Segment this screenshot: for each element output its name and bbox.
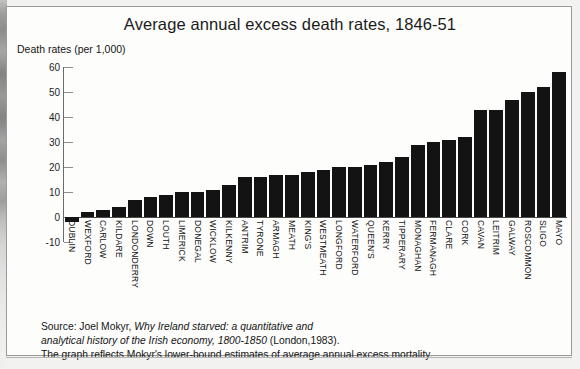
bar-item[interactable] bbox=[536, 67, 552, 242]
source-title-part-2: analytical history of the Irish economy,… bbox=[41, 335, 267, 346]
bar[interactable] bbox=[395, 157, 409, 217]
bar-item[interactable] bbox=[127, 67, 143, 242]
bar[interactable] bbox=[175, 192, 189, 217]
x-axis-label: KERRY bbox=[381, 220, 391, 250]
bar[interactable] bbox=[442, 140, 456, 218]
x-axis-label: WEXFORD bbox=[83, 220, 93, 265]
x-axis-label: WESTMEATH bbox=[318, 220, 328, 275]
bar-item[interactable] bbox=[378, 67, 394, 242]
bar-item[interactable] bbox=[253, 67, 269, 242]
bar[interactable] bbox=[364, 165, 378, 218]
bar-series bbox=[64, 67, 567, 242]
x-axis-label: CORK bbox=[460, 220, 470, 245]
y-axis-tick-label: 40 bbox=[20, 112, 60, 123]
x-axis-label: WICKLOW bbox=[208, 220, 218, 263]
bar-item[interactable] bbox=[111, 67, 127, 242]
x-axis-label: ARMAGH bbox=[271, 220, 281, 259]
bar[interactable] bbox=[552, 72, 566, 217]
bar-item[interactable] bbox=[347, 67, 363, 242]
bar[interactable] bbox=[474, 110, 488, 218]
bar[interactable] bbox=[238, 177, 252, 217]
bar[interactable] bbox=[301, 172, 315, 217]
y-axis-tick-label: 0 bbox=[20, 212, 60, 223]
bar[interactable] bbox=[81, 212, 95, 217]
bar-item[interactable] bbox=[551, 67, 567, 242]
y-axis-tick-label: -10 bbox=[20, 237, 60, 248]
bar[interactable] bbox=[144, 197, 158, 217]
bar-item[interactable] bbox=[316, 67, 332, 242]
bar[interactable] bbox=[285, 175, 299, 218]
y-axis-tick-label: 30 bbox=[20, 137, 60, 148]
x-axis-label: CARLOW bbox=[98, 220, 108, 259]
x-axis-label: CLARE bbox=[444, 220, 454, 249]
bar-item[interactable] bbox=[284, 67, 300, 242]
bar[interactable] bbox=[159, 195, 173, 218]
bar-item[interactable] bbox=[95, 67, 111, 242]
bar-item[interactable] bbox=[80, 67, 96, 242]
x-axis-label: QUEEN'S bbox=[366, 220, 376, 259]
bar[interactable] bbox=[379, 162, 393, 217]
bar[interactable] bbox=[96, 210, 110, 218]
x-axis-label: KILKENNY bbox=[224, 220, 234, 264]
bar-item[interactable] bbox=[363, 67, 379, 242]
x-axis-label: CAVAN bbox=[476, 220, 486, 249]
bar-item[interactable] bbox=[268, 67, 284, 242]
bar-item[interactable] bbox=[394, 67, 410, 242]
x-axis-label: LONDONDERRY bbox=[130, 220, 140, 288]
bar-item[interactable] bbox=[190, 67, 206, 242]
bar-item[interactable] bbox=[457, 67, 473, 242]
bar[interactable] bbox=[489, 110, 503, 218]
bar-item[interactable] bbox=[331, 67, 347, 242]
x-axis-label: MEATH bbox=[287, 220, 297, 250]
bar-item[interactable] bbox=[488, 67, 504, 242]
bar-item[interactable] bbox=[300, 67, 316, 242]
bar[interactable] bbox=[458, 137, 472, 217]
bar[interactable] bbox=[269, 175, 283, 218]
bar-item[interactable] bbox=[410, 67, 426, 242]
bar[interactable] bbox=[348, 167, 362, 217]
bar-item[interactable] bbox=[441, 67, 457, 242]
x-axis-label: GALWAY bbox=[507, 220, 517, 256]
x-axis-label: WATERFORD bbox=[350, 220, 360, 276]
y-axis-title: Death rates (per 1,000) bbox=[17, 43, 126, 55]
x-axis-label: DONEGAL bbox=[193, 220, 203, 263]
bar[interactable] bbox=[427, 142, 441, 217]
bar[interactable] bbox=[505, 100, 519, 218]
y-axis-tick-label: 10 bbox=[20, 187, 60, 198]
bar[interactable] bbox=[332, 167, 346, 217]
x-axis-label: KING'S bbox=[303, 220, 313, 249]
x-axis-label: ROSCOMMON bbox=[523, 220, 533, 280]
x-axis-label: LEITRIM bbox=[491, 220, 501, 255]
bar-item[interactable] bbox=[473, 67, 489, 242]
source-publisher: (London,1983). bbox=[267, 335, 340, 346]
bar[interactable] bbox=[112, 207, 126, 217]
bar-item[interactable] bbox=[426, 67, 442, 242]
page-title: Average annual excess death rates, 1846-… bbox=[7, 15, 573, 34]
bar[interactable] bbox=[128, 200, 142, 218]
x-axis-label: LONGFORD bbox=[334, 220, 344, 270]
bar[interactable] bbox=[206, 190, 220, 218]
bar[interactable] bbox=[191, 192, 205, 217]
bar-item[interactable] bbox=[221, 67, 237, 242]
source-prefix: Source: Joel Mokyr, bbox=[41, 321, 134, 332]
bar[interactable] bbox=[411, 145, 425, 218]
bottom-divider bbox=[6, 357, 572, 358]
bar-item[interactable] bbox=[205, 67, 221, 242]
source-line-1: Source: Joel Mokyr, Why Ireland starved:… bbox=[41, 320, 561, 334]
bar-item[interactable] bbox=[237, 67, 253, 242]
x-axis-label: LOUTH bbox=[161, 220, 171, 250]
bar-item[interactable] bbox=[504, 67, 520, 242]
bar[interactable] bbox=[254, 177, 268, 217]
x-axis-label: DUBLIN bbox=[67, 220, 77, 252]
bar-item[interactable] bbox=[174, 67, 190, 242]
x-axis-label: DOWN bbox=[145, 220, 155, 248]
bar-item[interactable] bbox=[520, 67, 536, 242]
x-axis-label: TYRONE bbox=[255, 220, 265, 257]
bar-item[interactable] bbox=[64, 67, 80, 242]
bar-item[interactable] bbox=[143, 67, 159, 242]
bar-item[interactable] bbox=[158, 67, 174, 242]
bar[interactable] bbox=[537, 87, 551, 217]
bar[interactable] bbox=[317, 170, 331, 218]
bar[interactable] bbox=[222, 185, 236, 218]
bar[interactable] bbox=[521, 92, 535, 217]
